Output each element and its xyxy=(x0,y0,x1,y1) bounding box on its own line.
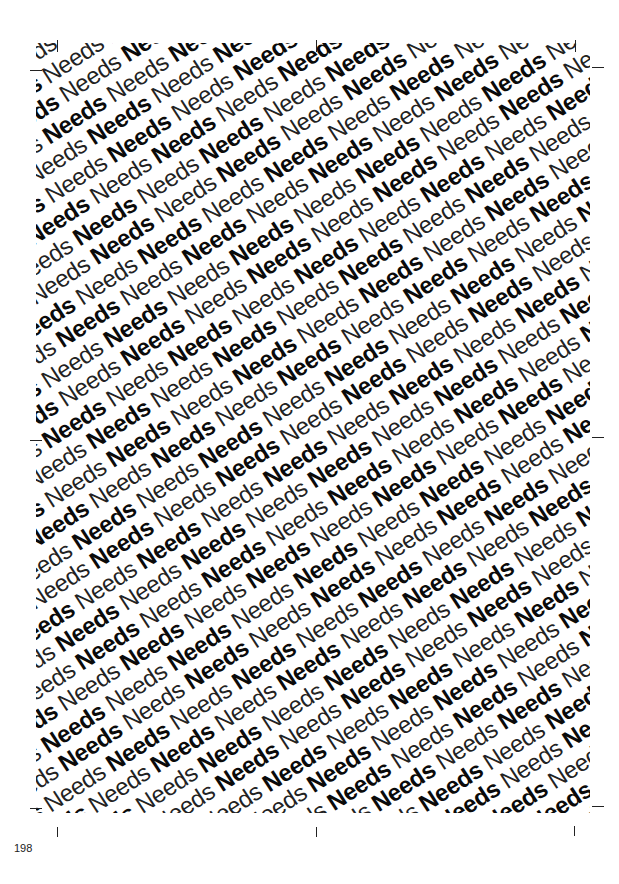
needs-typographic-pattern: NeedsNeedsNeedsNeedsNeedsNeedsNeedsNeeds… xyxy=(36,43,590,813)
crop-mark-bottom-right-h xyxy=(592,806,604,807)
crop-mark-bottom-left-v xyxy=(57,827,58,837)
crop-mark-bottom-center xyxy=(316,827,317,837)
crop-mark-top-right-h xyxy=(592,67,604,68)
rotated-text-field: NeedsNeedsNeedsNeedsNeedsNeedsNeedsNeeds… xyxy=(36,43,590,813)
crop-mark-top-left-v xyxy=(57,40,58,52)
crop-mark-top-center xyxy=(316,40,317,52)
crop-mark-top-left-h xyxy=(30,70,42,71)
page-number: 198 xyxy=(14,842,32,854)
crop-mark-bottom-right-v xyxy=(574,826,575,836)
crop-mark-middle-right xyxy=(592,437,604,438)
crop-mark-middle-left xyxy=(30,440,42,441)
crop-mark-top-right-v xyxy=(575,40,576,52)
crop-mark-bottom-left-h xyxy=(30,808,42,809)
